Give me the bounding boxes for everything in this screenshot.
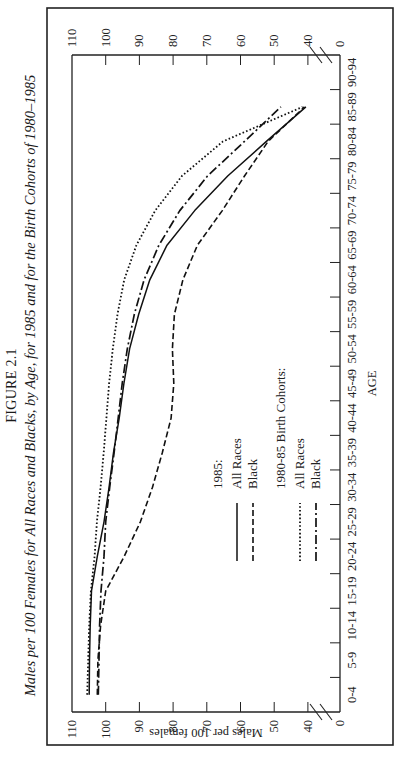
x-tick-label: 35-39: [345, 438, 359, 467]
axes: 11011010010090908080707060605050404000Ma…: [65, 28, 379, 740]
x-tick-label: 20-24: [345, 541, 359, 571]
x-tick-label: 5-9: [345, 652, 359, 669]
x-tick-label: 85-89: [345, 92, 359, 121]
legend-item-label: Black: [308, 458, 323, 489]
x-tick-label: 40-44: [345, 403, 359, 433]
x-tick-label: 0-4: [345, 686, 359, 703]
x-tick-label: 80-84: [345, 126, 359, 156]
y-tick-label-right: 100: [99, 28, 113, 47]
legend-group1-title: 1985:: [210, 459, 225, 489]
x-tick-label: 65-69: [345, 231, 359, 260]
y-tick-label: 40: [301, 720, 315, 733]
x-tick-label: 45-49: [345, 369, 359, 398]
y-tick-label: 100: [99, 720, 113, 739]
x-tick-label: 90-94: [345, 57, 359, 87]
line-chart: 11011010010090908080707060605050404000Ma…: [0, 0, 400, 771]
legend-group2-title: 1980-85 Birth Cohorts:: [273, 368, 288, 489]
figure-page: FIGURE 2.1 Males per 100 Females for All…: [0, 0, 400, 771]
series-line-dash-dot: [98, 107, 281, 695]
x-axis-label: AGE: [365, 370, 379, 396]
y-tick-label-right: 50: [267, 35, 281, 48]
x-tick-label: 70-74: [345, 195, 359, 225]
y-tick-label-right: 60: [234, 35, 248, 48]
y-tick-label-right: 40: [301, 35, 315, 48]
x-tick-label: 60-64: [345, 264, 359, 294]
y-tick-label-right: 80: [166, 35, 180, 48]
legend: 1985:All RacesBlack1980-85 Birth Cohorts…: [210, 368, 323, 561]
legend-item-label: All Races: [292, 438, 307, 489]
x-tick-label: 10-14: [345, 610, 359, 640]
chart-frame: [47, 8, 393, 745]
y-tick-label-right: 0: [333, 41, 347, 47]
legend-item-label: Black: [245, 458, 260, 489]
y-tick-label: 0: [333, 720, 347, 726]
x-tick-label: 30-34: [345, 472, 359, 502]
y-tick-label: 90: [132, 720, 146, 733]
y-tick-label-right: 90: [132, 35, 146, 48]
y-axis-label: Males per 100 females: [149, 726, 263, 740]
y-tick-label: 110: [65, 720, 79, 738]
x-tick-label: 15-19: [345, 576, 359, 605]
x-tick-label: 50-54: [345, 334, 359, 364]
legend-item-label: All Races: [229, 438, 244, 489]
y-tick-label: 50: [267, 720, 281, 733]
x-tick-label: 55-59: [345, 300, 359, 329]
x-tick-label: 75-79: [345, 161, 359, 190]
y-tick-label-right: 110: [65, 29, 79, 47]
y-tick-label-right: 70: [200, 35, 214, 48]
x-tick-label: 25-29: [345, 507, 359, 536]
